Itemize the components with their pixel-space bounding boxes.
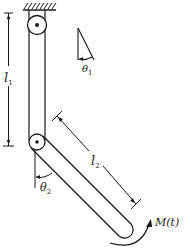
l1-arrow-bottom-icon [7,140,10,145]
double-pendulum-diagram: θ2 l1 l2 θ1 M(t) [0,0,188,250]
upper-link [29,26,45,140]
moment-arrowhead-icon [146,219,152,227]
theta2-arrowhead-icon [36,175,40,179]
theta1-arrowhead-icon [79,57,83,61]
moment-label: M(t) [154,216,179,229]
lower-pivot [29,134,45,150]
moment-arrow [110,224,149,245]
theta1-label: θ1 [82,63,93,77]
l2-dimension [52,111,141,209]
theta2-label: θ2 [40,181,51,196]
l2-label: l2 [91,153,100,170]
theta1-indicator [78,28,94,60]
l1-label: l1 [4,70,13,87]
upper-pivot [28,16,47,35]
l1-arrow-top-icon [7,14,10,19]
l2-arrow-bottom-icon [130,198,135,203]
